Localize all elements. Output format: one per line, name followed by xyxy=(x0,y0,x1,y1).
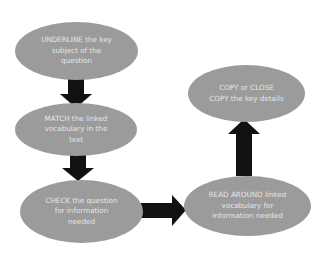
node-read-around-label: READ AROUND linked vocabulary for inform… xyxy=(203,190,293,222)
node-copy-label: COPY or CLOSE COPY the key details xyxy=(203,83,289,104)
arrow-down-icon xyxy=(62,154,94,181)
arrow-up-icon xyxy=(228,119,260,176)
node-read-around: READ AROUND linked vocabulary for inform… xyxy=(184,176,311,236)
node-match: MATCH the linked vocabulary in the text xyxy=(15,103,137,156)
node-check: CHECK the question for information neede… xyxy=(20,180,143,243)
node-underline-label: UNDERLINE the key subject of the questio… xyxy=(35,35,118,67)
node-check-label: CHECK the question for information neede… xyxy=(39,196,123,228)
node-match-label: MATCH the linked vocabulary in the text xyxy=(39,114,114,146)
node-underline: UNDERLINE the key subject of the questio… xyxy=(15,22,138,80)
arrow-right-icon xyxy=(141,195,186,226)
node-copy: COPY or CLOSE COPY the key details xyxy=(188,65,305,122)
